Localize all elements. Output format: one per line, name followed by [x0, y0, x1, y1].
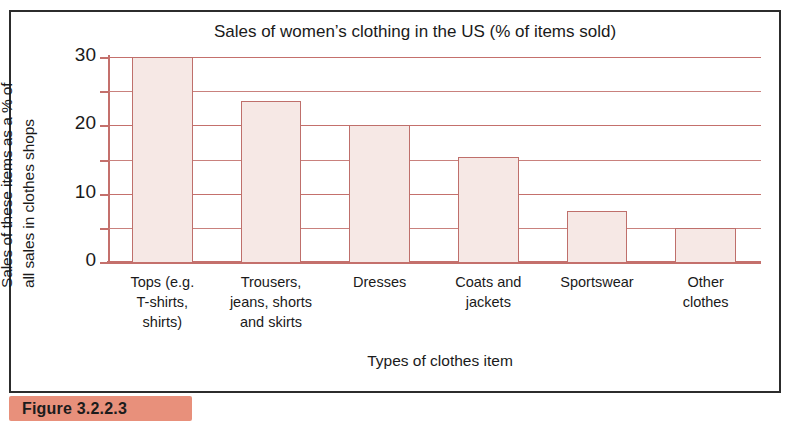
- bar: [567, 211, 628, 262]
- figure-caption: Figure 3.2.2.3: [22, 398, 202, 419]
- x-category-label-line: Sportswear: [535, 272, 660, 292]
- x-category-label: Coats andjackets: [426, 272, 551, 312]
- x-category-label-line: Coats and: [426, 272, 551, 292]
- x-category-label-line: Dresses: [317, 272, 442, 292]
- y-tick-major: [100, 262, 109, 264]
- x-axis-label: Types of clothes item: [180, 352, 700, 370]
- x-category-label: Otherclothes: [643, 272, 768, 312]
- x-category-label-line: jackets: [426, 292, 551, 312]
- bar: [349, 125, 410, 262]
- chart-title: Sales of women’s clothing in the US (% o…: [90, 22, 740, 42]
- x-category-label: Tops (e.g.T-shirts,shirts): [100, 272, 225, 332]
- bar: [458, 157, 519, 262]
- x-category-label: Sportswear: [535, 272, 660, 292]
- y-tick-label: 30: [60, 44, 96, 66]
- x-category-label-line: Trousers,: [209, 272, 334, 292]
- y-tick-label: 20: [60, 112, 96, 134]
- x-category-label-line: Tops (e.g.: [100, 272, 225, 292]
- x-category-label: Trousers,jeans, shortsand skirts: [209, 272, 334, 332]
- x-category-label-line: jeans, shorts: [209, 292, 334, 312]
- x-category-label: Dresses: [317, 272, 442, 292]
- x-category-label-line: clothes: [643, 292, 768, 312]
- bar: [675, 228, 736, 262]
- plot-area: [108, 57, 760, 262]
- x-category-label-line: T-shirts,: [100, 292, 225, 312]
- y-tick-label: 0: [60, 249, 96, 271]
- y-axis-label-line-2: all sales in clothes shops: [20, 119, 38, 288]
- y-tick-label: 10: [60, 181, 96, 203]
- y-axis-label-line-1: Sales of these items as a % of: [0, 83, 16, 289]
- x-category-label-line: Other: [643, 272, 768, 292]
- x-category-label-line: and skirts: [209, 312, 334, 332]
- bar: [241, 101, 302, 262]
- x-category-label-line: shirts): [100, 312, 225, 332]
- bar: [132, 57, 193, 262]
